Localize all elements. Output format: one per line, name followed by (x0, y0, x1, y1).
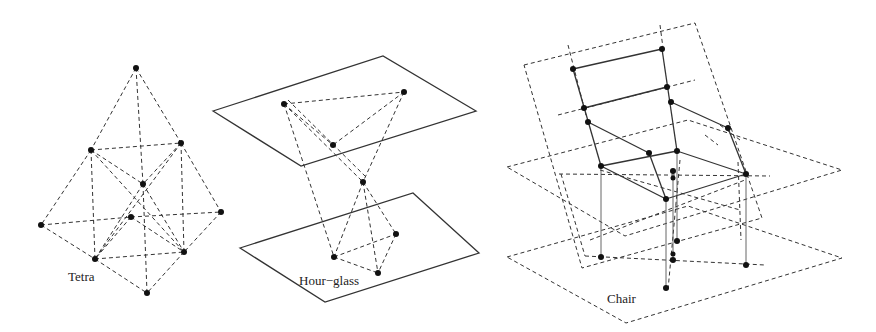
hourglass-edges (284, 92, 404, 273)
tetra-node (181, 249, 187, 255)
chair-node (743, 171, 749, 177)
chair-node (663, 196, 669, 202)
chair-back-plane (524, 23, 762, 268)
tetra-node (38, 222, 44, 228)
tetra-node (88, 147, 94, 153)
chair-node (581, 105, 587, 111)
diagram-canvas: Tetra (0, 0, 876, 332)
chair-node (646, 150, 652, 156)
chair-node (664, 84, 670, 90)
hourglass-label: Hour−glass (299, 273, 359, 288)
tetra-node (92, 256, 98, 262)
hourglass-node (360, 179, 366, 185)
tetra-node (218, 209, 224, 215)
tetra-node (178, 140, 184, 146)
hourglass-node (331, 254, 337, 260)
chair-node (598, 163, 604, 169)
hourglass-node (281, 101, 287, 107)
chair-node (668, 99, 674, 105)
tetra-node (133, 65, 139, 71)
chair-node (663, 285, 669, 291)
chair-node (598, 254, 604, 260)
chair-nodes (570, 46, 749, 291)
hourglass-node (393, 231, 399, 237)
chair-frame (573, 49, 746, 199)
chair-node (725, 125, 731, 131)
chair-node (671, 252, 676, 257)
chair-figure: Chair (507, 23, 842, 323)
tetra-node (144, 290, 150, 296)
hourglass-bottom-plane (240, 193, 479, 302)
hourglass-top-plane (213, 56, 476, 166)
chair-node (659, 46, 665, 52)
chair-node (674, 148, 680, 154)
tetra-node (140, 181, 146, 187)
tetra-nodes (38, 65, 224, 296)
hourglass-nodes (281, 89, 407, 276)
hourglass-node (330, 142, 336, 148)
hourglass-node (375, 270, 381, 276)
tetra-figure: Tetra (38, 65, 224, 296)
tetra-node (128, 214, 134, 220)
chair-node (670, 257, 676, 263)
tetra-edges (41, 68, 221, 293)
hourglass-figure: Hour−glass (213, 56, 479, 302)
chair-node (670, 168, 676, 174)
chair-label: Chair (607, 291, 637, 306)
hourglass-node (401, 89, 407, 95)
chair-node (671, 176, 676, 181)
tetra-label: Tetra (68, 269, 95, 284)
chair-node (674, 238, 680, 244)
chair-node (585, 119, 591, 125)
chair-node (743, 262, 749, 268)
chair-node (570, 66, 576, 72)
